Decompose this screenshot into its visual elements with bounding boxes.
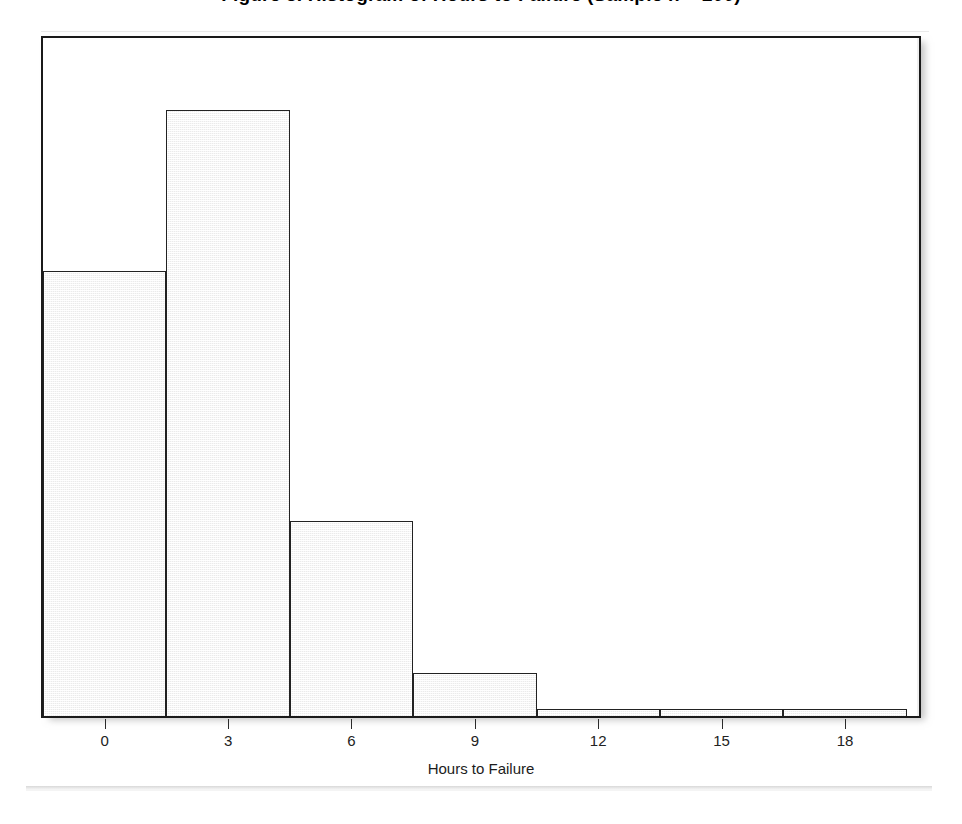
histogram-bar <box>166 110 289 718</box>
chart-title: Figure 3. Histogram of Hours to Failure … <box>0 0 962 6</box>
histogram-bar <box>290 521 413 718</box>
x-axis-tick-label: 18 <box>815 732 875 749</box>
x-axis-tick-label: 12 <box>568 732 628 749</box>
x-axis-tick <box>722 719 723 729</box>
x-axis-tick <box>845 719 846 729</box>
x-axis-tick-label: 9 <box>445 732 505 749</box>
figure-page: Figure 3. Histogram of Hours to Failure … <box>0 0 962 824</box>
x-axis-title: Hours to Failure <box>0 760 962 777</box>
x-axis-line <box>41 716 921 718</box>
plot-area <box>43 38 919 718</box>
histogram-bar <box>413 673 536 718</box>
x-axis-tick-label: 6 <box>321 732 381 749</box>
x-axis-tick <box>475 719 476 729</box>
x-axis-tick <box>228 719 229 729</box>
x-axis-tick <box>351 719 352 729</box>
histogram-bar <box>43 271 166 718</box>
x-axis-tick-label: 0 <box>75 732 135 749</box>
x-axis-tick-label: 15 <box>692 732 752 749</box>
x-axis-tick-label: 3 <box>198 732 258 749</box>
top-divider <box>41 31 929 32</box>
bottom-divider-soft <box>26 789 932 791</box>
x-axis-tick <box>598 719 599 729</box>
x-axis-tick <box>105 719 106 729</box>
